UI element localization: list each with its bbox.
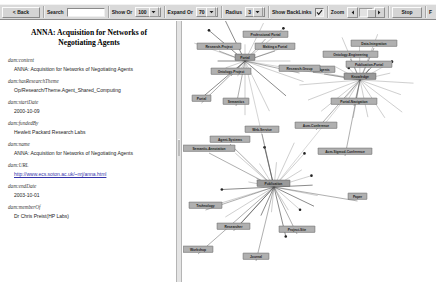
metadata-property: dam:memberOf: [8, 204, 170, 210]
graph-node-label: Making a Portal: [263, 45, 287, 49]
graph-node[interactable]: Publication: [257, 180, 290, 186]
graph-node[interactable]: Semantic-Annotation: [183, 145, 235, 151]
stop-button[interactable]: Stop: [392, 7, 422, 18]
graph-leaf-node[interactable]: [310, 174, 313, 177]
zoom-slider-track[interactable]: [359, 8, 373, 17]
metadata-value: 2003-10-01: [14, 192, 170, 198]
metadata-value-link[interactable]: http://www.ecs.soton.ac.uk/~nrj/anna.htm…: [14, 171, 170, 177]
back-button[interactable]: < Back: [2, 7, 40, 18]
graph-node-label: Workshop: [190, 248, 206, 252]
search-label: Search: [47, 9, 64, 16]
graph-edge: [245, 61, 274, 187]
checkmark-icon: [316, 9, 323, 16]
graph-leaf-node[interactable]: [282, 27, 285, 30]
metadata-value: Dr Chris Preist(HP Labs): [14, 213, 170, 219]
chevron-down-icon: [253, 7, 263, 17]
graph-node[interactable]: Portal: [235, 54, 255, 60]
graph-node-label: Acm-Sigmod-Conference: [325, 150, 365, 154]
slider-left-arrow-icon[interactable]: [347, 7, 358, 18]
metadata-value: 2000-10-09: [14, 108, 170, 114]
graph-leaf-node[interactable]: [284, 235, 287, 238]
divider-grip[interactable]: [178, 139, 180, 156]
overflow-menu-button[interactable]: F: [429, 9, 434, 16]
graph-node[interactable]: Acm-Conference: [295, 122, 337, 128]
graph-edge: [261, 187, 274, 216]
graph-node[interactable]: Research-Group: [279, 65, 320, 71]
toolbar-separator: [268, 6, 269, 18]
graph-edge: [222, 187, 274, 190]
search-input[interactable]: [67, 8, 105, 17]
graph-node[interactable]: Researcher: [217, 223, 250, 229]
toolbar: < Back Search Show Or 100 Expand Or 70 R…: [0, 4, 436, 20]
graph-node[interactable]: Project-Site: [279, 226, 315, 232]
graph-canvas[interactable]: Professional PortalResearch-ProjectMakin…: [183, 21, 436, 282]
toolbar-separator: [388, 6, 389, 18]
graph-node[interactable]: Portal-Navigation: [331, 98, 377, 104]
graph-node[interactable]: Journal: [243, 253, 269, 259]
expand-count-dropdown[interactable]: 70: [196, 7, 219, 17]
metadata-property: dam:startDate: [8, 99, 170, 105]
metadata-property: dam:name: [8, 141, 170, 147]
graph-node-label: Portal-Navigation: [340, 100, 367, 104]
graph-leaf-node[interactable]: [221, 188, 224, 191]
expand-label: Expand Or: [168, 9, 193, 16]
radius-label: Radius: [225, 9, 242, 16]
page-title: ANNA: Acquisition for Networks of Negoti…: [12, 28, 166, 48]
graph-node-label: Acm-Conference: [303, 124, 330, 128]
graph-leaf-node[interactable]: [208, 29, 211, 32]
show-count-value: 100: [136, 8, 148, 16]
metadata-value: Hewlett Packard Research Labs: [14, 129, 170, 135]
graph-node-label: Semantics: [228, 100, 245, 104]
show-backlinks-checkbox[interactable]: [315, 8, 324, 17]
graph-node[interactable]: Portal: [192, 95, 211, 101]
chevron-down-icon: [206, 7, 216, 17]
graph-node[interactable]: Web-Service: [245, 126, 279, 132]
metadata-property: dam:content: [8, 57, 170, 63]
document-pane[interactable]: ANNA: Acquisition for Networks of Negoti…: [0, 21, 176, 282]
graph-edge: [360, 80, 414, 83]
graph-node-label: Ontology-Engineering: [333, 53, 368, 57]
graph-node[interactable]: Semantics: [223, 98, 249, 104]
graph-node[interactable]: Making a Portal: [255, 43, 295, 49]
zoom-slider[interactable]: [347, 7, 385, 17]
graph-edge: [198, 187, 274, 254]
zoom-slider-thumb[interactable]: [367, 9, 376, 18]
graph-leaf-node[interactable]: [303, 152, 306, 155]
graph-node[interactable]: Research-Project: [197, 43, 241, 49]
show-label: Show Or: [112, 9, 133, 16]
metadata-value: Op/Research/Theme.Agent_Shared_Computing: [14, 87, 170, 93]
chevron-down-icon: [149, 7, 159, 17]
graph-node[interactable]: Agent-Systems: [210, 136, 250, 142]
metadata-property: dam:fundedBy: [8, 120, 170, 126]
graph-node[interactable]: Acm-Sigmod-Conference: [318, 148, 372, 154]
toolbar-separator: [43, 6, 44, 18]
graph-node-label: Semantic-Annotation: [192, 147, 225, 151]
graph-edge: [360, 80, 402, 112]
graph-node-label: Researcher: [225, 225, 244, 229]
graph-node[interactable]: Data-Integration: [351, 40, 397, 46]
graph-node[interactable]: Ontology-Project: [211, 68, 251, 74]
graph-node[interactable]: Workshop: [183, 246, 213, 252]
expand-count-value: 70: [197, 8, 207, 16]
metadata-list: dam:contentANNA: Acquisition for Network…: [8, 57, 170, 219]
graph-node[interactable]: Paper: [348, 193, 367, 199]
toolbar-separator: [108, 6, 109, 18]
graph-node[interactable]: Publication-Portal: [346, 61, 392, 67]
toolbar-separator: [221, 6, 222, 18]
radius-dropdown[interactable]: 3: [245, 7, 265, 17]
graph-edge: [345, 80, 360, 156]
graph-visualization-pane[interactable]: Professional PortalResearch-ProjectMakin…: [183, 21, 436, 282]
application-window: < Back Search Show Or 100 Expand Or 70 R…: [0, 0, 436, 282]
toolbar-separator: [327, 6, 328, 18]
graph-node-label: Agent-Systems: [218, 138, 242, 142]
graph-node[interactable]: Knowledge: [344, 73, 376, 79]
graph-node[interactable]: Ontology-Engineering: [323, 51, 378, 57]
graph-node[interactable]: Technology: [189, 202, 222, 208]
graph-edge: [274, 187, 300, 210]
toolbar-separator: [164, 6, 165, 18]
graph-node[interactable]: Professional Portal: [243, 31, 288, 37]
graph-leaf-node[interactable]: [299, 208, 302, 211]
show-count-dropdown[interactable]: 100: [135, 7, 160, 17]
graph-node-label: Professional Portal: [250, 33, 280, 37]
split-pane-divider[interactable]: [176, 21, 182, 282]
